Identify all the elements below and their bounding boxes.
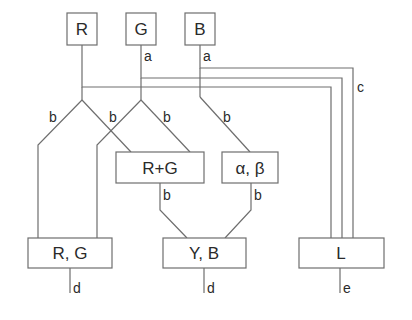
edge-label-yb-out-d: d xyxy=(207,280,215,296)
edge-label-g-a: a xyxy=(144,48,152,64)
r-left-branch xyxy=(38,100,82,238)
input-label-b: B xyxy=(194,20,205,39)
input-label-r: R xyxy=(76,20,88,39)
middle-label-rg-sum: R+G xyxy=(142,159,177,178)
input-box-r: R xyxy=(67,13,97,45)
middle-box-rg-sum: R+G xyxy=(116,152,204,183)
input-box-g: G xyxy=(126,13,156,45)
edge-label-alpha-beta-b: b xyxy=(254,187,262,203)
edge-label-g-right-b: b xyxy=(163,109,171,125)
edge-label-l-out-e: e xyxy=(343,280,351,296)
b-to-l-line xyxy=(200,45,353,238)
output-box-yb: Y, B xyxy=(163,238,246,268)
edge-label-r-right-b: b xyxy=(109,109,117,125)
alpha-beta-to-yb-line xyxy=(225,183,251,238)
input-box-b: B xyxy=(185,13,215,45)
g-to-l-line xyxy=(141,45,342,238)
input-label-g: G xyxy=(134,20,147,39)
edge-label-l-bundle-c: c xyxy=(357,79,364,95)
output-label-yb: Y, B xyxy=(189,244,219,263)
output-label-rg: R, G xyxy=(53,244,88,263)
output-box-l: L xyxy=(299,238,384,268)
r-to-l-line xyxy=(82,45,331,238)
color-opponent-diagram: R G B R+G α, β R, G Y, B L a a b b b b b… xyxy=(0,0,412,320)
output-box-rg: R, G xyxy=(28,238,112,268)
r-right-branch xyxy=(82,100,131,152)
edge-label-rg-sum-b: b xyxy=(163,187,171,203)
edge-label-r-left-b: b xyxy=(49,109,57,125)
edge-label-b-down-b: b xyxy=(223,109,231,125)
middle-box-alpha-beta: α, β xyxy=(222,152,278,183)
g-right-branch xyxy=(141,100,190,152)
output-label-l: L xyxy=(336,244,345,263)
edge-label-b-a: a xyxy=(203,48,211,64)
middle-label-alpha-beta: α, β xyxy=(235,159,264,178)
edge-label-rg-out-d: d xyxy=(73,280,81,296)
